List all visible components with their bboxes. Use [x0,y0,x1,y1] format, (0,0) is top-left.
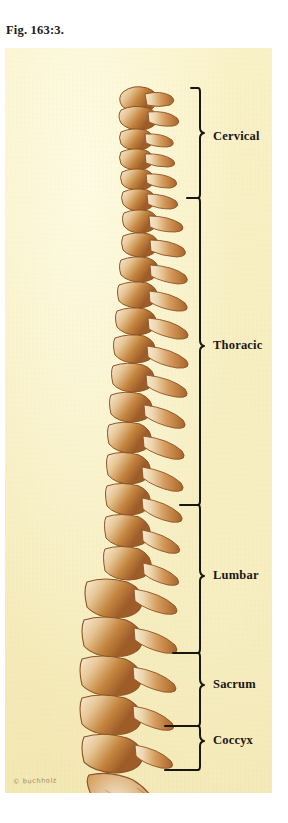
figure-caption: Fig. 163:3. [6,23,64,38]
cervical-vertebrae-group [119,87,183,233]
sacrum-group [87,773,166,793]
region-label-cervical: Cervical [213,129,260,144]
lumbar-vertebrae-group [80,579,177,773]
thoracic-vertebrae-group [104,233,189,585]
region-label-lumbar: Lumbar [213,568,259,583]
region-label-thoracic: Thoracic [213,338,263,353]
artist-signature: © buchholz [13,777,57,786]
region-label-coccyx: Coccyx [213,733,253,748]
illustration-panel: Cervical Thoracic Lumbar Sacrum Coccyx ©… [5,48,272,793]
region-label-sacrum: Sacrum [213,677,256,692]
